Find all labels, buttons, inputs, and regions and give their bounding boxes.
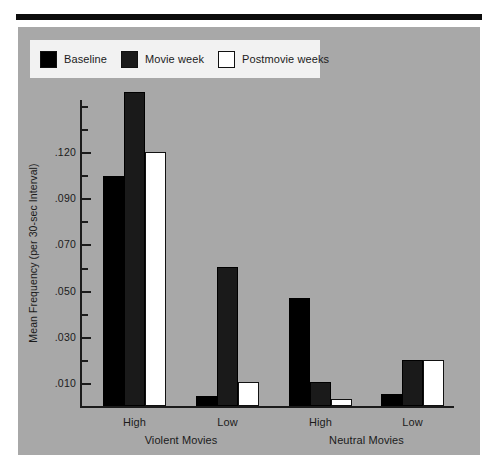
white-swatch-icon xyxy=(218,51,235,68)
legend-item-baseline: Baseline xyxy=(40,51,107,68)
page-canvas: Baseline Movie week Postmovie weeks Mean… xyxy=(0,0,498,471)
legend-label-movie-week: Movie week xyxy=(145,53,204,65)
chart-legend: Baseline Movie week Postmovie weeks xyxy=(30,40,320,78)
legend-label-postmovie-weeks: Postmovie weeks xyxy=(242,53,329,65)
figure-panel xyxy=(18,27,480,455)
legend-item-movie-week: Movie week xyxy=(121,51,204,68)
legend-label-baseline: Baseline xyxy=(64,53,107,65)
dark-gray-swatch-icon xyxy=(121,51,138,68)
black-swatch-icon xyxy=(40,51,57,68)
legend-item-postmovie-weeks: Postmovie weeks xyxy=(218,51,329,68)
top-horizontal-rule xyxy=(16,14,482,20)
